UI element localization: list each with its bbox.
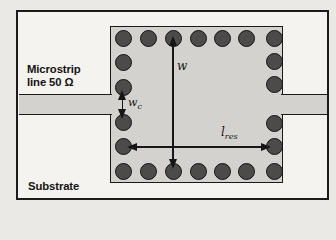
dim-arrow-lres-head-left: [127, 143, 137, 151]
via-hole: [115, 54, 132, 71]
dim-arrow-lres-head-right: [261, 143, 271, 151]
via-hole: [115, 163, 132, 180]
via-hole: [238, 163, 255, 180]
input-feed-line: [19, 94, 113, 115]
via-hole: [266, 30, 283, 47]
dim-label-w-main: w: [177, 59, 187, 73]
via-hole: [140, 30, 157, 47]
substrate-label: Substrate: [28, 180, 79, 193]
dim-label-wc-sub: c: [137, 102, 141, 111]
microstrip-label-line2: line 50 Ω: [27, 76, 81, 89]
dim-label-lres: lres: [221, 126, 238, 143]
dim-label-w: w: [177, 60, 187, 72]
via-hole: [214, 30, 231, 47]
via-hole: [238, 30, 255, 47]
via-hole: [214, 163, 231, 180]
microstrip-label-line1: Microstrip: [27, 63, 81, 76]
dim-arrow-w-head-top: [169, 36, 177, 46]
dim-arrow-w: [172, 44, 174, 161]
dim-label-wc-main: w: [128, 96, 137, 109]
via-hole: [190, 30, 207, 47]
via-hole: [140, 163, 157, 180]
output-feed-line: [281, 94, 327, 115]
dim-arrow-w-head-bottom: [169, 159, 177, 169]
dim-arrow-wc-head-bottom: [118, 109, 126, 119]
dim-label-lres-sub: res: [225, 132, 238, 141]
via-hole: [115, 30, 132, 47]
dim-arrow-wc-head-top: [118, 90, 126, 100]
via-hole: [190, 163, 207, 180]
via-hole: [266, 115, 283, 132]
dim-arrow-lres: [135, 146, 263, 148]
via-hole: [266, 53, 283, 70]
dim-label-wc: wc: [128, 97, 142, 113]
via-hole: [266, 76, 283, 93]
microstrip-label: Microstrip line 50 Ω: [27, 63, 81, 88]
via-hole: [266, 163, 283, 180]
